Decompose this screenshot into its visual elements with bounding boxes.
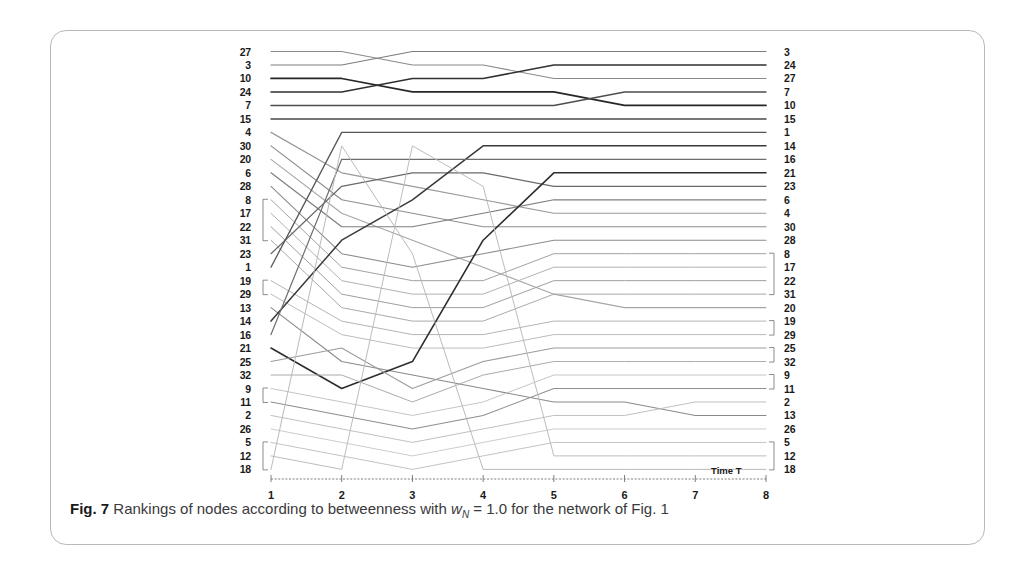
right-rank-label-26: 26 [784, 424, 806, 435]
rank-line-node-21 [271, 173, 766, 389]
caption-text-part2: = 1.0 for the network of Fig. 1 [473, 500, 669, 517]
right-rank-label-28: 28 [784, 235, 806, 246]
right-rank-label-20: 20 [784, 303, 806, 314]
rank-line-node-12 [271, 146, 766, 470]
left-rank-label-24: 24 [229, 87, 251, 98]
right-rank-label-4: 4 [784, 208, 806, 219]
tie-bracket-right [769, 253, 774, 294]
left-rank-label-27: 27 [229, 47, 251, 58]
tie-bracket-right [769, 375, 774, 389]
left-rank-label-21: 21 [229, 343, 251, 354]
left-rank-label-8: 8 [229, 195, 251, 206]
right-rank-label-15: 15 [784, 114, 806, 125]
left-rank-label-13: 13 [229, 303, 251, 314]
left-rank-label-23: 23 [229, 249, 251, 260]
right-rank-label-1: 1 [784, 127, 806, 138]
left-rank-label-10: 10 [229, 73, 251, 84]
rank-line-node-14 [271, 146, 766, 321]
rank-line-node-24 [271, 65, 766, 92]
rank-chart-svg [51, 31, 986, 546]
right-rank-label-12: 12 [784, 451, 806, 462]
right-rank-label-25: 25 [784, 343, 806, 354]
right-rank-label-16: 16 [784, 154, 806, 165]
rank-line-node-4 [271, 132, 766, 213]
left-rank-label-29: 29 [229, 289, 251, 300]
rank-line-node-18 [271, 146, 766, 470]
tie-bracket-right [769, 348, 774, 362]
tie-bracket-right [769, 321, 774, 335]
rank-line-node-3 [271, 52, 766, 65]
rank-line-node-8 [271, 200, 766, 281]
x-axis-layer [271, 475, 766, 482]
left-rank-label-16: 16 [229, 330, 251, 341]
left-rank-label-20: 20 [229, 154, 251, 165]
rank-line-node-10 [271, 78, 766, 105]
left-rank-label-28: 28 [229, 181, 251, 192]
caption-variable-subscript: N [462, 509, 469, 520]
rank-line-node-29 [271, 294, 766, 348]
rank-line-node-17 [271, 213, 766, 294]
rank-line-node-11 [271, 389, 766, 429]
right-rank-label-14: 14 [784, 141, 806, 152]
left-rank-label-14: 14 [229, 316, 251, 327]
left-rank-label-9: 9 [229, 384, 251, 395]
left-rank-label-2: 2 [229, 410, 251, 421]
tie-brackets-layer [263, 199, 774, 470]
right-rank-label-6: 6 [784, 195, 806, 206]
left-rank-label-18: 18 [229, 464, 251, 475]
tie-bracket-left [263, 388, 268, 402]
rank-line-node-5 [271, 442, 766, 469]
left-rank-label-12: 12 [229, 451, 251, 462]
tie-bracket-left [263, 442, 268, 470]
rank-line-node-6 [271, 173, 766, 227]
rank-line-node-20 [271, 159, 766, 307]
left-rank-label-25: 25 [229, 357, 251, 368]
rank-line-node-13 [271, 308, 766, 416]
left-rank-label-30: 30 [229, 141, 251, 152]
right-rank-label-7: 7 [784, 87, 806, 98]
rank-line-node-23 [271, 173, 766, 254]
rank-line-node-9 [271, 375, 766, 415]
right-rank-label-23: 23 [784, 181, 806, 192]
rank-line-node-28 [271, 186, 766, 267]
right-rank-label-17: 17 [784, 262, 806, 273]
right-rank-label-24: 24 [784, 60, 806, 71]
caption-variable-w: w [451, 500, 462, 517]
left-rank-label-15: 15 [229, 114, 251, 125]
rank-line-node-22 [271, 227, 766, 308]
tie-bracket-left [263, 280, 268, 294]
right-rank-label-19: 19 [784, 316, 806, 327]
left-rank-label-19: 19 [229, 276, 251, 287]
right-rank-label-5: 5 [784, 437, 806, 448]
right-rank-label-11: 11 [784, 384, 806, 395]
right-rank-label-8: 8 [784, 249, 806, 260]
rank-line-node-1 [271, 132, 766, 267]
right-rank-label-10: 10 [784, 100, 806, 111]
right-rank-label-9: 9 [784, 370, 806, 381]
figure-caption: Fig. 7 Rankings of nodes according to be… [70, 500, 970, 520]
tie-bracket-left [263, 199, 268, 240]
x-axis-ticks [271, 475, 766, 482]
rank-line-node-27 [271, 52, 766, 79]
rank-line-node-2 [271, 402, 766, 442]
left-rank-label-31: 31 [229, 235, 251, 246]
right-rank-label-3: 3 [784, 47, 806, 58]
rank-line-node-31 [271, 240, 766, 321]
left-rank-label-3: 3 [229, 60, 251, 71]
rank-line-node-19 [271, 281, 766, 335]
right-rank-label-30: 30 [784, 222, 806, 233]
left-rank-label-22: 22 [229, 222, 251, 233]
rank-line-node-16 [271, 159, 766, 334]
left-rank-label-1: 1 [229, 262, 251, 273]
right-rank-label-21: 21 [784, 168, 806, 179]
figure-number: Fig. 7 [70, 500, 109, 517]
rank-line-node-32 [271, 362, 766, 402]
right-rank-label-22: 22 [784, 276, 806, 287]
x-axis-title: Time T [711, 465, 741, 476]
right-rank-label-27: 27 [784, 73, 806, 84]
left-rank-label-11: 11 [229, 397, 251, 408]
right-rank-label-13: 13 [784, 410, 806, 421]
left-rank-label-7: 7 [229, 100, 251, 111]
tie-bracket-right [769, 442, 774, 470]
right-rank-label-18: 18 [784, 464, 806, 475]
